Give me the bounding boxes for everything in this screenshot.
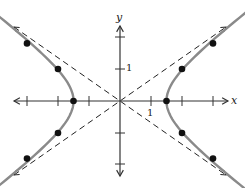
x-axis-label: x [231,95,237,106]
plotted-point [210,40,217,47]
y-tick-label-1: 1 [126,63,132,73]
x-axis [14,96,228,106]
hyperbola-diagram: y x 1 1 [0,0,245,188]
plotted-point [179,66,186,73]
plotted-point [163,98,170,105]
plotted-point [210,155,217,162]
x-tick-label-1: 1 [147,108,153,118]
plotted-point [24,155,31,162]
graph-canvas [0,0,245,188]
plotted-point [55,130,62,137]
plotted-point [179,130,186,137]
plotted-point [70,98,77,105]
hyperbola-curve [0,0,245,188]
plotted-point [24,40,31,47]
y-axis-label: y [116,12,122,23]
left-branch [0,0,73,188]
plotted-point [55,66,62,73]
